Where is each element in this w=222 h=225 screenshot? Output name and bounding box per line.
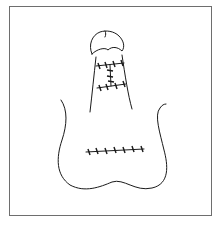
stitches: [88, 60, 143, 155]
glans-outline: [90, 31, 123, 54]
meatus-notch: [105, 31, 106, 37]
shaft-vertical-incision: [110, 65, 111, 86]
shaft-left-outline: [90, 57, 96, 112]
anatomy-diagram: [0, 0, 222, 225]
scrotum-outline: [58, 100, 167, 189]
